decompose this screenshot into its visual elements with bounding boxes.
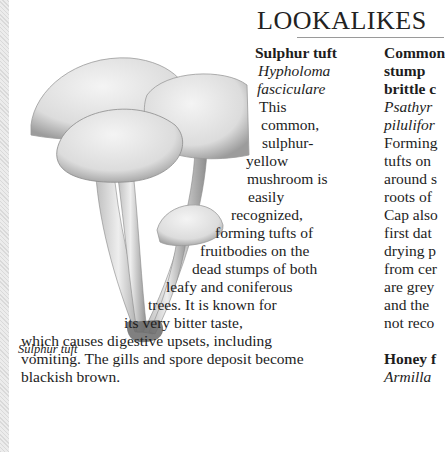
entry-body-line: blackish brown. (21, 368, 120, 386)
entry-body-line: common, (261, 116, 319, 134)
entry-title: Common (384, 44, 445, 62)
entry-body-line: drying p (384, 242, 436, 260)
entry-body-line: yellow (246, 152, 288, 170)
entry-body-line: Forming (384, 134, 437, 152)
entry-body-line: sulphur- (262, 134, 313, 152)
entry-body-line: fruitbodies on the (200, 242, 309, 260)
entry-latin-name: Psathyr (384, 98, 432, 116)
entry-body-line: easily (248, 188, 284, 206)
entry-title: Honey f (384, 350, 436, 368)
entry-body-line: which causes digestive upsets, including (21, 332, 272, 350)
entry-body-line: This (259, 98, 287, 116)
entry-title: stump (384, 62, 425, 80)
entry-body-line: first dat (384, 224, 432, 242)
entry-latin-name: pilulifor (384, 116, 435, 134)
entry-body-line: Cap also (384, 206, 438, 224)
heading-divider (297, 37, 444, 38)
entry-latin-name: Armilla (384, 368, 431, 386)
entry-body-line: and the (384, 296, 429, 314)
section-heading: LOOKALIKES (257, 6, 427, 36)
entry-body-line: are grey (384, 278, 434, 296)
entry-body-line: trees. It is known for (148, 296, 277, 314)
entry-body-line: vomiting. The gills and spore deposit be… (21, 350, 304, 368)
entry-latin-name: Hypholoma (258, 62, 330, 80)
entry-body-line: mushroom is (247, 170, 328, 188)
entry-body-line: not reco (384, 314, 434, 332)
entry-body-line: recognized, (231, 206, 303, 224)
entry-latin-name: fasciculare (257, 80, 325, 98)
entry-body-line: its very bitter taste, (124, 314, 243, 332)
entry-body-line: tufts on (384, 152, 431, 170)
entry-body-line: leafy and coniferous (166, 278, 293, 296)
entry-body-line: roots of (384, 188, 432, 206)
page-edge-strip (0, 0, 9, 452)
entry-body-line: dead stumps of both (192, 260, 317, 278)
entry-body-line: from cer (384, 260, 437, 278)
entry-body-line: around s (384, 170, 437, 188)
entry-title: Sulphur tuft (255, 44, 337, 62)
entry-body-line: forming tufts of (215, 224, 313, 242)
entry-title: brittle c (384, 80, 436, 98)
